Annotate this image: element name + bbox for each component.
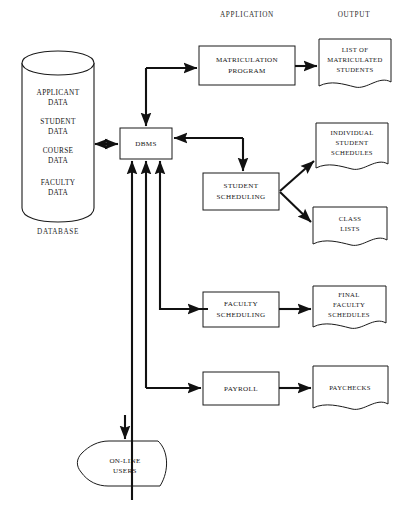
flow-diagram-canvas: APPLICATION OUTPUT APPLICANT DATA STUDEN… [0,0,411,521]
individual-student-schedules-line2: STUDENT [336,139,369,146]
database-field-student-line1: STUDENT [40,117,76,126]
database-field-applicant-line1: APPLICANT [37,88,80,97]
on-line-users-line2: USERS [113,467,137,475]
matriculation-program-label-line2: PROGRAM [228,67,266,75]
database-system-flow-diagram: APPLICATION OUTPUT APPLICANT DATA STUDEN… [0,0,411,521]
faculty-scheduling-label-line1: FACULTY [224,300,258,308]
list-matriculated-students-line3: STUDENTS [337,66,374,73]
list-matriculated-students-line2: MATRICULATED [327,56,382,63]
student-scheduling-label-line1: STUDENT [224,182,259,190]
matriculation-program-label-line1: MATRICULATION [216,56,278,64]
list-matriculated-students-line1: LIST OF [342,46,369,53]
final-faculty-schedules-line2: FACULTY [333,301,365,308]
final-faculty-schedules-line3: SCHEDULES [328,311,370,318]
payroll-label: PAYROLL [224,385,258,393]
database-field-faculty-line2: DATA [48,188,69,197]
dbms-label: DBMS [135,140,157,148]
student-scheduling-label-line2: SCHEDULING [217,193,266,201]
database-field-applicant-line2: DATA [48,98,69,107]
database-field-course-line2: DATA [48,156,69,165]
paychecks-line1: PAYCHECKS [329,384,371,391]
matriculation-program-box[interactable] [199,46,295,85]
on-line-users-line1: ON-LINE [109,457,140,465]
column-header-application: APPLICATION [220,11,274,19]
database-field-faculty-line1: FACULTY [41,178,76,187]
connector-student-scheduling-to-class-lists [280,192,311,222]
student-scheduling-box[interactable] [203,173,279,210]
faculty-scheduling-box[interactable] [203,292,279,327]
connector-faculty-scheduling-return-to-dbms [160,161,208,309]
individual-student-schedules-line1: INDIVIDUAL [330,129,373,136]
connector-student-scheduling-to-individual-schedules [280,161,314,191]
database-field-student-line2: DATA [48,127,69,136]
final-faculty-schedules-line1: FINAL [338,291,359,298]
database-field-course-line1: COURSE [43,146,74,155]
faculty-scheduling-label-line2: SCHEDULING [217,311,266,319]
individual-student-schedules-line3: SCHEDULES [331,149,373,156]
database-caption: DATABASE [37,228,79,236]
class-lists-line1: CLASS [339,215,362,222]
column-header-output: OUTPUT [338,11,371,19]
class-lists-line2: LISTS [340,225,360,232]
